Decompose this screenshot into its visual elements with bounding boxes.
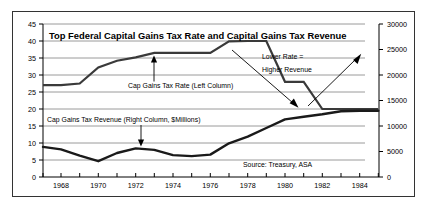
x-tick-label-1984: 1984: [352, 181, 368, 190]
right-tick-label-0: 0: [387, 173, 391, 182]
right-tick-label-15000: 15000: [387, 96, 407, 105]
x-tick-label-1972: 1972: [128, 181, 144, 190]
chart-canvas: 45 40 35 30 25 20 15 10 5 0 30000: [13, 12, 416, 198]
chart-title: Top Federal Capital Gains Tax Rate and C…: [49, 30, 346, 41]
x-tick-label-1978: 1978: [240, 181, 256, 190]
left-tick-label-45: 45: [28, 20, 36, 29]
left-tick-label-40: 40: [28, 37, 36, 46]
left-tick-label-5: 5: [32, 156, 36, 165]
annotation-insight-arrow-up: [308, 59, 356, 106]
annotation-rate-callout-text: Cap Gains Tax Rate (Left Column): [128, 82, 233, 90]
x-tick-label-1982: 1982: [314, 181, 330, 190]
annotation-rate-callout: Cap Gains Tax Rate (Left Column): [128, 56, 233, 91]
annotation-insight-arrowhead-down: [290, 99, 299, 108]
right-tick-label-25000: 25000: [387, 45, 407, 54]
left-tick-label-25: 25: [28, 88, 36, 97]
x-tick-label-1970: 1970: [90, 181, 106, 190]
gridlines: [43, 24, 365, 160]
x-axis-ticks: 1968 1970 1972 1974 1976 1978 1980 1982 …: [43, 173, 378, 190]
annotation-insight-arrowhead-up: [353, 54, 361, 64]
x-tick-label-1974: 1974: [165, 181, 181, 190]
x-tick-label-1980: 1980: [277, 181, 293, 190]
annotation-revenue-callout-text: Cap Gains Tax Revenue (Right Column, $Mi…: [47, 116, 200, 124]
source-note: Source: Treasury, ASA: [243, 161, 313, 169]
left-tick-label-20: 20: [28, 105, 36, 114]
right-tick-label-5000: 5000: [387, 147, 403, 156]
annotation-insight-line1: Lower Rate =: [262, 53, 303, 60]
left-tick-label-35: 35: [28, 54, 36, 63]
left-tick-label-30: 30: [28, 71, 36, 80]
annotation-rate-callout-arrowhead: [151, 56, 157, 63]
chart-plot-frame: 45 40 35 30 25 20 15 10 5 0 30000: [12, 11, 415, 197]
right-tick-label-30000: 30000: [387, 20, 407, 29]
left-tick-label-0: 0: [32, 173, 36, 182]
x-tick-label-1968: 1968: [53, 181, 69, 190]
x-tick-label-1976: 1976: [202, 181, 218, 190]
chart-figure: 45 40 35 30 25 20 15 10 5 0 30000: [0, 0, 427, 209]
left-axis-ticks: 45 40 35 30 25 20 15 10 5 0: [28, 20, 43, 182]
right-axis-ticks: 30000 25000 20000 15000 10000 5000 0: [379, 20, 407, 182]
left-tick-label-10: 10: [28, 139, 36, 148]
annotation-insight-line2: Higher Revenue: [262, 66, 312, 74]
left-tick-label-15: 15: [28, 122, 36, 131]
right-tick-label-10000: 10000: [387, 122, 407, 131]
right-tick-label-20000: 20000: [387, 71, 407, 80]
annotation-insight-callout: Lower Rate = Higher Revenue: [232, 50, 361, 108]
annotation-revenue-callout: Cap Gains Tax Revenue (Right Column, $Mi…: [47, 116, 200, 147]
